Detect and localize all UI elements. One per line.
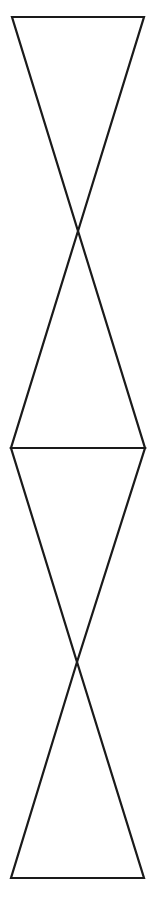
bottom-triangle xyxy=(11,662,144,878)
top-inverted-triangle xyxy=(12,17,144,231)
hourglass-diagram xyxy=(0,0,165,916)
lower-middle-inverted-triangle xyxy=(11,448,145,662)
upper-middle-triangle xyxy=(11,231,145,448)
